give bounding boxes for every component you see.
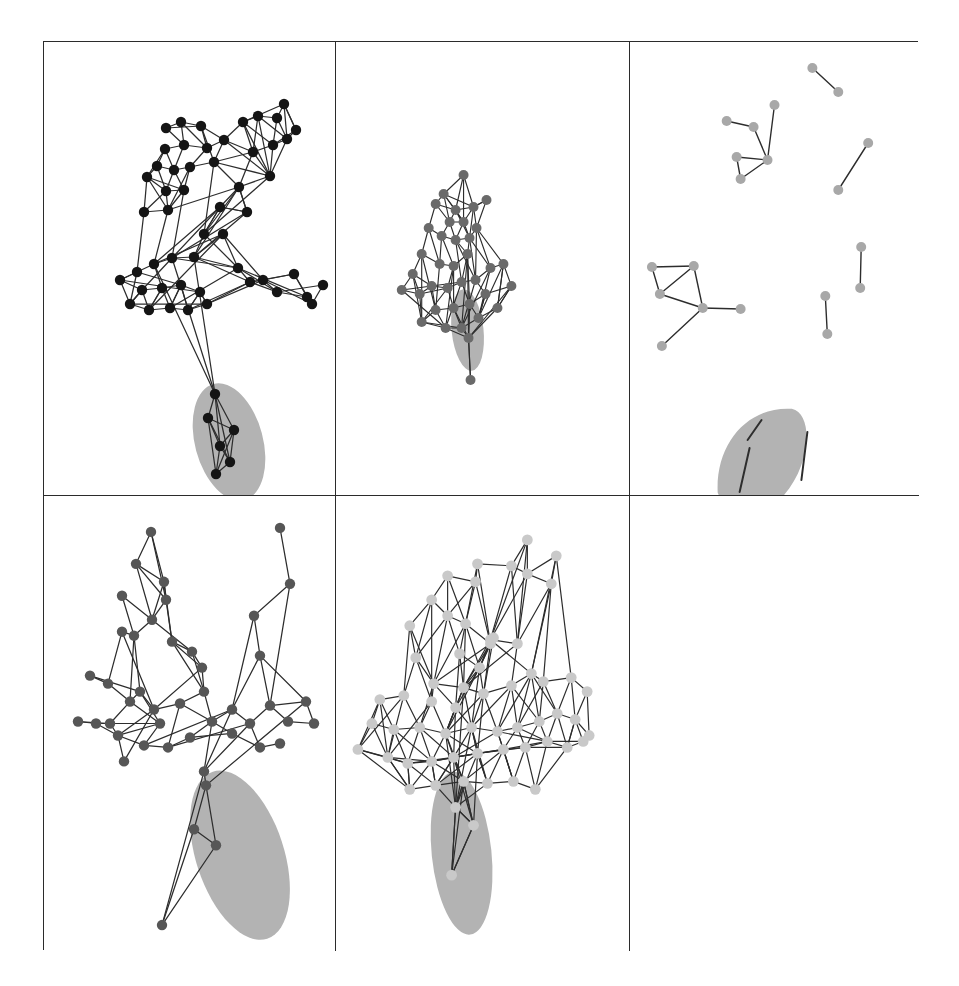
graph-node[interactable] — [161, 123, 171, 133]
graph-node[interactable] — [245, 277, 255, 287]
graph-node[interactable] — [506, 560, 517, 571]
graph-node[interactable] — [530, 784, 541, 795]
graph-node[interactable] — [202, 143, 212, 153]
graph-node[interactable] — [472, 748, 483, 759]
graph-node[interactable] — [458, 682, 469, 693]
graph-node[interactable] — [91, 718, 101, 728]
graph-node[interactable] — [161, 186, 171, 196]
graph-node[interactable] — [142, 172, 152, 182]
graph-node[interactable] — [167, 253, 177, 263]
graph-node[interactable] — [482, 778, 493, 789]
graph-node[interactable] — [227, 704, 237, 714]
graph-node[interactable] — [353, 744, 364, 755]
graph-node[interactable] — [441, 323, 451, 333]
panel-5-bottom-middle[interactable] — [335, 495, 629, 951]
graph-node[interactable] — [578, 736, 589, 747]
graph-node[interactable] — [163, 742, 173, 752]
graph-node[interactable] — [448, 752, 459, 763]
graph-node[interactable] — [485, 263, 495, 273]
graph-node[interactable] — [736, 174, 746, 184]
graph-node[interactable] — [468, 820, 479, 831]
graph-node[interactable] — [492, 303, 502, 313]
graph-node[interactable] — [520, 742, 531, 753]
graph-node[interactable] — [179, 140, 189, 150]
graph-node[interactable] — [211, 840, 221, 850]
graph-node[interactable] — [689, 261, 699, 271]
graph-node[interactable] — [179, 185, 189, 195]
graph-node[interactable] — [404, 784, 415, 795]
graph-node[interactable] — [129, 631, 139, 641]
graph-node[interactable] — [119, 756, 129, 766]
graph-node[interactable] — [512, 722, 523, 733]
graph-node[interactable] — [534, 716, 545, 727]
graph-node[interactable] — [248, 147, 258, 157]
graph-node[interactable] — [472, 558, 483, 569]
graph-node[interactable] — [459, 170, 469, 180]
graph-node[interactable] — [366, 718, 377, 729]
graph-node[interactable] — [149, 704, 159, 714]
graph-node[interactable] — [131, 559, 141, 569]
graph-node[interactable] — [566, 672, 577, 683]
graph-node[interactable] — [309, 718, 319, 728]
graph-node[interactable] — [146, 527, 156, 537]
graph-node[interactable] — [492, 726, 503, 737]
graph-node[interactable] — [160, 144, 170, 154]
graph-node[interactable] — [426, 594, 437, 605]
graph-node[interactable] — [855, 283, 865, 293]
graph-node[interactable] — [446, 870, 457, 881]
graph-node[interactable] — [488, 632, 499, 643]
graph-node[interactable] — [445, 217, 455, 227]
graph-node[interactable] — [249, 611, 259, 621]
graph-node[interactable] — [245, 718, 255, 728]
graph-node[interactable] — [526, 668, 537, 679]
graph-node[interactable] — [463, 249, 473, 259]
graph-node[interactable] — [582, 686, 593, 697]
graph-node[interactable] — [233, 263, 243, 273]
graph-node[interactable] — [195, 287, 205, 297]
graph-node[interactable] — [863, 138, 873, 148]
graph-node[interactable] — [210, 389, 220, 399]
graph-node[interactable] — [219, 135, 229, 145]
graph-node[interactable] — [229, 425, 239, 435]
graph-node[interactable] — [482, 195, 492, 205]
graph-node[interactable] — [258, 275, 268, 285]
graph-node[interactable] — [275, 523, 285, 533]
graph-node[interactable] — [227, 728, 237, 738]
graph-node[interactable] — [155, 718, 165, 728]
graph-node[interactable] — [167, 636, 177, 646]
graph-node[interactable] — [176, 280, 186, 290]
graph-node[interactable] — [546, 578, 557, 589]
graph-node[interactable] — [291, 125, 301, 135]
graph-node[interactable] — [472, 223, 482, 233]
graph-node[interactable] — [443, 283, 453, 293]
graph-node[interactable] — [202, 299, 212, 309]
graph-node[interactable] — [458, 776, 469, 787]
graph-node[interactable] — [807, 63, 817, 73]
graph-node[interactable] — [397, 285, 407, 295]
graph-node[interactable] — [542, 736, 553, 747]
graph-node[interactable] — [187, 646, 197, 656]
panel-6-bottom-right-empty[interactable] — [629, 495, 919, 951]
graph-node[interactable] — [414, 722, 425, 733]
graph-node[interactable] — [132, 267, 142, 277]
graph-node[interactable] — [199, 686, 209, 696]
graph-node[interactable] — [506, 281, 516, 291]
graph-node[interactable] — [736, 304, 746, 314]
graph-node[interactable] — [307, 299, 317, 309]
graph-node[interactable] — [139, 740, 149, 750]
graph-node[interactable] — [147, 615, 157, 625]
graph-node[interactable] — [275, 738, 285, 748]
graph-node[interactable] — [115, 275, 125, 285]
graph-node[interactable] — [197, 662, 207, 672]
graph-node[interactable] — [465, 299, 475, 309]
graph-node[interactable] — [439, 189, 449, 199]
graph-node[interactable] — [103, 678, 113, 688]
graph-node[interactable] — [506, 680, 517, 691]
graph-node[interactable] — [698, 303, 708, 313]
graph-node[interactable] — [285, 579, 295, 589]
graph-node[interactable] — [410, 652, 421, 663]
graph-node[interactable] — [440, 728, 451, 739]
graph-node[interactable] — [424, 223, 434, 233]
graph-node[interactable] — [144, 305, 154, 315]
graph-node[interactable] — [457, 323, 467, 333]
